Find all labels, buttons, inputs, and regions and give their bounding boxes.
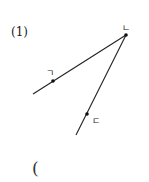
label-giyeok: ㄱ — [46, 68, 54, 78]
problem-number: (1) — [11, 25, 28, 39]
ray-nieun-giyeok — [33, 35, 126, 94]
point-giyeok — [51, 79, 55, 83]
answer-open-paren: ( — [32, 158, 39, 178]
geometry-figure: (1) ㄴ ㄱ ㄷ ( — [0, 0, 149, 182]
label-digeut: ㄷ — [92, 116, 100, 126]
ray-nieun-digeut — [76, 35, 126, 135]
label-nieun: ㄴ — [122, 23, 130, 33]
point-digeut — [85, 112, 89, 116]
point-nieun — [124, 33, 128, 37]
